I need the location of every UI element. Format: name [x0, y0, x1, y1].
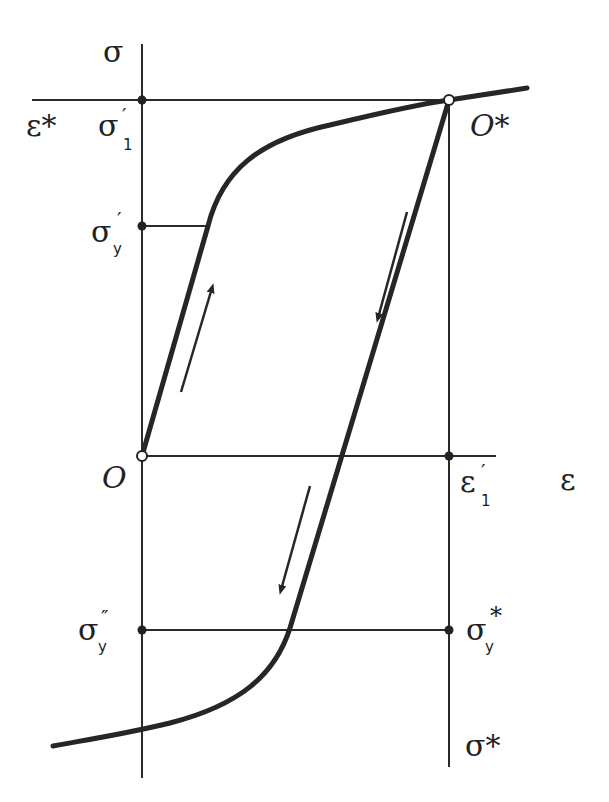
sigma-y-star-point — [445, 626, 454, 635]
labels: σ ε ε* σ 1 ′ σ y ′ O O* ε 1 ′ σ y ″ σ y … — [26, 34, 576, 763]
unloading-arrow-icon — [378, 212, 407, 318]
sigma-axis-label: σ — [103, 34, 123, 69]
svg-text:″: ″ — [101, 605, 108, 629]
sigma1-prime-point — [138, 96, 147, 105]
loading-curve — [142, 88, 527, 456]
epsilon-axis-label: ε — [560, 462, 576, 497]
sigma-y-double-prime-label: σ y ″ — [78, 605, 108, 656]
sigma-star-label: σ* — [465, 728, 500, 763]
svg-text:′: ′ — [122, 103, 127, 127]
sigma-y-star-label: σ y * — [466, 602, 502, 656]
svg-text:′: ′ — [481, 459, 486, 483]
sigma-y-double-prime-point — [138, 626, 147, 635]
hysteresis-curve — [53, 88, 527, 746]
svg-text:1: 1 — [123, 136, 133, 154]
sigma-y-prime-point — [138, 222, 147, 231]
svg-text:1: 1 — [481, 492, 491, 510]
reverse-loading-curve — [53, 100, 449, 746]
origin-star-point — [444, 95, 454, 105]
svg-text:y: y — [98, 638, 107, 656]
svg-text:σ: σ — [98, 108, 118, 143]
sigma1-prime-label: σ 1 ′ — [98, 103, 133, 154]
svg-text:*: * — [490, 602, 502, 630]
svg-text:y: y — [485, 638, 494, 656]
direction-arrows — [181, 212, 407, 590]
stress-strain-diagram: σ ε ε* σ 1 ′ σ y ′ O O* ε 1 ′ σ y ″ σ y … — [0, 0, 609, 802]
axes — [32, 44, 496, 778]
epsilon1-prime-label: ε 1 ′ — [460, 459, 491, 510]
sigma-y-prime-label: σ y ′ — [91, 207, 122, 258]
origin-point — [137, 451, 147, 461]
svg-text:σ: σ — [78, 612, 98, 647]
svg-text:ε: ε — [460, 464, 476, 499]
svg-text:σ: σ — [466, 612, 486, 647]
points — [137, 95, 454, 635]
epsilon1-prime-point — [445, 452, 454, 461]
origin-star-label: O* — [470, 108, 510, 143]
epsilon-star-label: ε* — [26, 108, 57, 143]
svg-text:σ: σ — [91, 214, 111, 249]
svg-text:′: ′ — [117, 207, 122, 231]
origin-label: O — [102, 460, 127, 495]
svg-text:y: y — [113, 240, 122, 258]
